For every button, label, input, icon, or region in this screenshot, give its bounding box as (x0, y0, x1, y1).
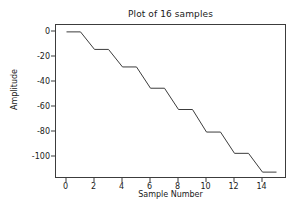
plot-area (55, 24, 286, 178)
data-line-series (56, 25, 287, 179)
chart-title: Plot of 16 samples (55, 9, 286, 19)
chart-figure: Plot of 16 samples Amplitude 0-20-40-60-… (0, 0, 302, 210)
x-axis-label: Sample Number (55, 190, 286, 199)
series-polyline (67, 32, 277, 172)
y-axis-tick-marks (0, 24, 55, 178)
